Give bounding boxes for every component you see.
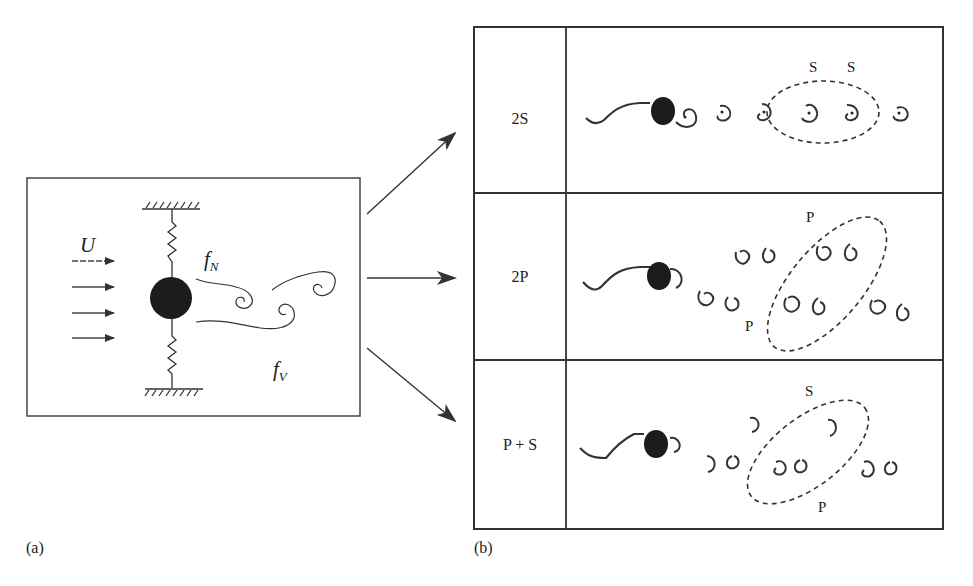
cylinder-icon <box>651 97 675 125</box>
natural-frequency-sub: N <box>210 259 219 274</box>
arrow-to-ps-icon <box>367 348 455 421</box>
mode-label-2p: 2P <box>474 268 566 286</box>
panel-a <box>27 178 360 416</box>
annotation-p-bottom: P <box>745 318 753 335</box>
top-spring-icon <box>168 209 176 277</box>
row-ps-wake <box>580 381 897 523</box>
annotation-p-top: P <box>806 209 814 226</box>
flow-arrows <box>72 261 114 338</box>
bottom-spring-icon <box>168 319 176 388</box>
panel-b-caption: (b) <box>474 539 493 557</box>
dashed-group-outline <box>730 381 885 523</box>
natural-frequency-label: fN <box>204 247 219 275</box>
bottom-ground-icon <box>145 389 203 396</box>
annotation-s-single: S <box>805 383 813 400</box>
cylinder-icon <box>647 262 671 290</box>
cylinder-icon <box>150 277 192 319</box>
panel-a-caption: (a) <box>26 539 44 557</box>
dashed-group-outline <box>747 198 908 370</box>
row-2s-wake <box>586 81 908 143</box>
vortex-frequency-label: fV <box>273 357 287 385</box>
cylinder-icon <box>644 430 668 458</box>
annotation-p-pair: P <box>818 499 826 516</box>
flow-velocity-label: U <box>80 233 95 258</box>
mode-label-ps: P + S <box>474 436 566 454</box>
row-2p-wake <box>583 198 909 370</box>
connector-arrows <box>367 133 455 421</box>
annotation-s-2: S <box>847 59 855 76</box>
dashed-group-outline <box>767 81 879 143</box>
mode-label-2s: 2S <box>474 110 566 128</box>
panel-a-frame <box>27 178 360 416</box>
arrow-to-2s-icon <box>367 133 455 214</box>
vortex-frequency-sub: V <box>279 369 287 384</box>
vortex-wake-icon <box>196 272 335 329</box>
top-ground-icon <box>142 202 200 209</box>
annotation-s-1: S <box>809 59 817 76</box>
figure-canvas <box>0 0 973 586</box>
